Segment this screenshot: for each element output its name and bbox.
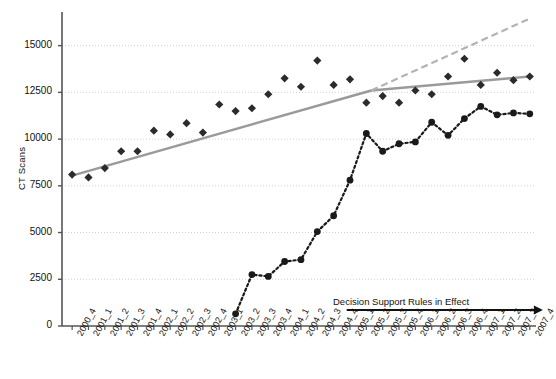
data-point-circle bbox=[265, 273, 272, 280]
data-point-diamond bbox=[264, 90, 272, 98]
data-point-diamond bbox=[199, 128, 207, 136]
y-axis-tick-label: 2500 bbox=[0, 272, 52, 283]
data-point-circle bbox=[281, 258, 288, 265]
data-point-circle bbox=[396, 140, 403, 147]
data-point-diamond bbox=[215, 100, 223, 108]
data-point-circle bbox=[330, 212, 337, 219]
data-point-diamond bbox=[362, 99, 370, 107]
data-point-circle bbox=[526, 110, 533, 117]
data-point-diamond bbox=[248, 104, 256, 112]
data-point-diamond bbox=[166, 130, 174, 138]
data-point-circle bbox=[461, 115, 468, 122]
y-axis-tick-label: 15000 bbox=[0, 39, 52, 50]
data-point-circle bbox=[249, 271, 256, 278]
data-point-circle bbox=[477, 103, 484, 110]
data-point-diamond bbox=[150, 127, 158, 135]
data-point-diamond bbox=[297, 83, 305, 91]
data-point-diamond bbox=[526, 72, 534, 80]
data-point-circle bbox=[314, 228, 321, 235]
data-point-diamond bbox=[84, 173, 92, 181]
data-point-circle bbox=[494, 111, 501, 118]
y-axis-tick-label: 10000 bbox=[0, 132, 52, 143]
data-point-diamond bbox=[444, 72, 452, 80]
data-point-diamond bbox=[313, 56, 321, 64]
series-line-ct-scans-with-decision-support bbox=[236, 106, 530, 313]
data-point-circle bbox=[412, 138, 419, 145]
data-point-diamond bbox=[493, 69, 501, 77]
data-point-circle bbox=[347, 177, 354, 184]
data-point-diamond bbox=[346, 75, 354, 83]
data-point-circle bbox=[298, 256, 305, 263]
data-point-diamond bbox=[428, 90, 436, 98]
data-point-diamond bbox=[330, 81, 338, 89]
data-point-diamond bbox=[133, 147, 141, 155]
y-axis-tick-label: 0 bbox=[0, 319, 52, 330]
y-axis-tick-label: 5000 bbox=[0, 226, 52, 237]
data-point-circle bbox=[363, 130, 370, 137]
data-point-diamond bbox=[182, 119, 190, 127]
data-point-circle bbox=[445, 132, 452, 139]
data-point-diamond bbox=[395, 99, 403, 107]
data-point-circle bbox=[428, 119, 435, 126]
data-point-diamond bbox=[460, 55, 468, 63]
data-point-diamond bbox=[68, 171, 76, 179]
data-point-circle bbox=[510, 110, 517, 117]
y-axis-tick-label: 12500 bbox=[0, 85, 52, 96]
data-point-diamond bbox=[281, 74, 289, 82]
data-point-circle bbox=[379, 148, 386, 155]
y-axis-tick-label: 7500 bbox=[0, 179, 52, 190]
data-point-diamond bbox=[379, 92, 387, 100]
decision-support-rules-label: Decision Support Rules in Effect bbox=[333, 296, 469, 307]
data-point-diamond bbox=[231, 107, 239, 115]
data-point-diamond bbox=[117, 147, 125, 155]
